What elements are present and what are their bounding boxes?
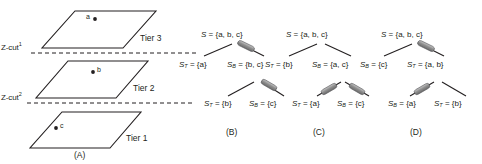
tree-d-node-root: S = {a, b, c} (381, 30, 423, 39)
point-a-dot (93, 17, 97, 21)
tier-2-label: Tier 2 (133, 83, 154, 93)
z-cut-2-label: Z-cut2 (1, 91, 22, 102)
tier-1-label: Tier 1 (126, 133, 147, 143)
tree-d-node-l1-left: SB = {c} (360, 60, 388, 69)
panel-b-tree: S = {a, b, c} ST = {a} SB = {b, c} ST = … (188, 0, 288, 164)
panel-b-caption: (B) (226, 127, 237, 137)
tree-b-node-root: S = {a, b, c} (201, 30, 243, 39)
tree-d-edge-l1-right (442, 82, 466, 96)
tree-c-edges (275, 0, 375, 164)
tier-2-plane (36, 61, 148, 98)
figure-canvas: a b c Tier 3 Tier 2 Tier 1 Z-cut1 Z-cut2… (0, 0, 482, 164)
panel-a-tier-stack: a b c Tier 3 Tier 2 Tier 1 Z-cut1 Z-cut2… (0, 0, 196, 164)
tree-d-edge-root-left (384, 44, 412, 56)
panel-d-tree: S = {a, b, c} SB = {c} ST = {a, b} SB = … (366, 0, 482, 164)
tree-d-marker-root-right (417, 40, 435, 53)
point-b-label: b (97, 66, 101, 73)
panel-c-tree: S = {a, b, c} ST = {b} SB = {a, c} ST = … (275, 0, 375, 164)
tree-b-edges (188, 0, 288, 164)
tier-stack-drawing (0, 0, 196, 164)
panel-d-caption: (D) (410, 127, 422, 137)
tree-b-node-l1-right: SB = {b, c} (227, 60, 263, 69)
tree-d-marker-l1-left (413, 82, 430, 95)
tree-b-edge-root-left (204, 44, 232, 56)
tier-1-plane (30, 112, 141, 148)
panel-c-caption: (C) (313, 127, 325, 137)
tree-b-edge-l1-left (228, 82, 254, 96)
tree-c-node-l2-right: SB = {c} (337, 99, 365, 108)
tree-c-node-l1-left: ST = {b} (265, 60, 293, 69)
tree-b-node-l1-left: ST = {a} (179, 60, 207, 69)
panel-a-caption: (A) (74, 150, 85, 160)
tree-c-marker-l1-left (320, 82, 337, 95)
tree-b-marker-root-right (237, 40, 255, 53)
tree-d-edges (366, 0, 482, 164)
tree-c-node-root: S = {a, b, c} (286, 30, 328, 39)
tree-c-edge-root-right (325, 44, 351, 56)
tree-c-edge-root-left (289, 44, 317, 56)
tree-b-node-l2-left: ST = {b} (204, 99, 232, 108)
point-b-dot (91, 70, 95, 74)
tree-d-node-l2-right: ST = {b} (434, 99, 462, 108)
point-c-label: c (60, 122, 64, 129)
point-a-label: a (86, 13, 90, 20)
tree-c-node-l2-left: ST = {a} (292, 99, 320, 108)
point-c-dot (54, 126, 58, 130)
tier-3-label: Tier 3 (140, 33, 161, 43)
tree-c-marker-l1-right (348, 82, 365, 95)
tree-d-node-l2-left: SB = {a} (388, 99, 416, 108)
z-cut-1-label: Z-cut1 (1, 41, 22, 52)
tree-d-node-l1-right: ST = {a, b} (407, 60, 444, 69)
tier-3-plane (42, 11, 156, 48)
tree-b-node-l2-right: SB = {c} (249, 99, 277, 108)
tree-c-node-l1-right: SB = {a, c} (312, 60, 348, 69)
